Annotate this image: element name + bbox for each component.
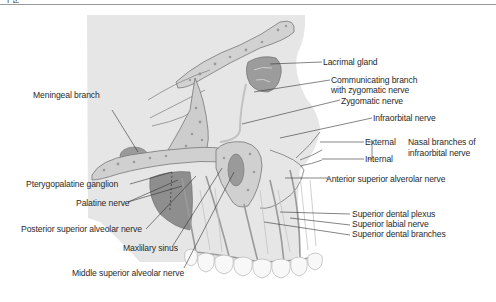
label-palatine-nerve: Palatine nerve bbox=[76, 198, 130, 208]
label-maxillary-sinus: Maxlilary sinus bbox=[123, 243, 178, 253]
label-external: External bbox=[365, 137, 396, 147]
label-anterior-superior-alveolar-nerve: Anterior superior alverolar nerve bbox=[326, 174, 445, 184]
label-nasal-branches-line2: infraorbital nerve bbox=[408, 148, 470, 158]
label-pterygopalatine-ganglion: Pterygopalatine ganglion bbox=[26, 179, 118, 189]
label-superior-dental-branches: Superior dental branches bbox=[352, 229, 446, 239]
label-superior-dental-plexus: Superior dental plexus bbox=[352, 209, 435, 219]
label-infraorbital-nerve: Infraorbital nerve bbox=[373, 113, 436, 123]
label-superior-labial-nerve: Superior labial nerve bbox=[352, 219, 429, 229]
label-communicating-branch-line2: with zygomatic nerve bbox=[331, 85, 409, 95]
label-meningeal-branch: Meningeal branch bbox=[33, 90, 100, 100]
label-internal: Internal bbox=[365, 154, 393, 164]
label-nasal-branches-line1: Nasal branches of bbox=[408, 137, 476, 147]
label-communicating-branch-line1: Communicating branch bbox=[331, 75, 417, 85]
maxillary-sinus-shape bbox=[228, 154, 244, 186]
label-zygomatic-nerve: Zygomatic nerve bbox=[341, 96, 403, 106]
label-posterior-superior-alveolar-nerve: Posterior superior alveolar nerve bbox=[21, 224, 142, 234]
label-lacrimal-gland: Lacrimal gland bbox=[323, 57, 378, 67]
label-middle-superior-alveolar-nerve: Middle superior alveolar nerve bbox=[72, 268, 184, 278]
